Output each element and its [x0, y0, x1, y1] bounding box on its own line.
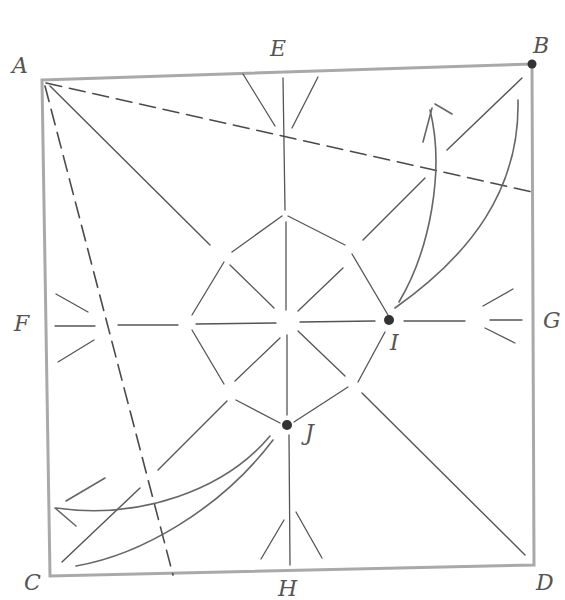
label-d: D	[536, 572, 554, 594]
dashed-crease-a-to-bottom	[45, 86, 173, 575]
edge-fan-creases	[56, 74, 515, 559]
diagonal-creases	[50, 78, 525, 562]
arrow-i-to-b-inner	[399, 110, 436, 302]
arrow-i-to-b-outer	[395, 100, 518, 308]
midline-creases	[55, 78, 522, 565]
dashed-creases	[45, 83, 532, 575]
arrow-j-to-c-outer	[76, 440, 273, 566]
arrow-j-to-c-inner	[56, 436, 270, 511]
point-b-dot	[528, 60, 537, 69]
center-octagon	[192, 216, 388, 423]
label-e: E	[270, 38, 286, 60]
point-j-dot	[282, 420, 292, 430]
label-a: A	[12, 55, 28, 77]
label-g: G	[543, 310, 561, 332]
label-i: I	[390, 332, 399, 354]
label-c: C	[24, 572, 41, 594]
label-h: H	[278, 578, 297, 600]
label-j: J	[305, 422, 314, 444]
label-b: B	[533, 35, 549, 57]
fold-arrows	[55, 100, 518, 566]
point-i-dot	[384, 315, 394, 325]
paper-square	[42, 64, 534, 576]
label-f: F	[14, 313, 29, 335]
crease-diagram	[0, 0, 565, 600]
marked-points	[282, 60, 537, 431]
